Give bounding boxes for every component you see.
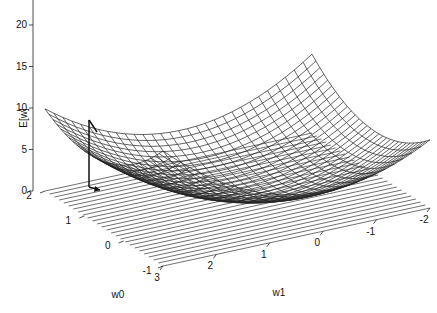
- w1-tick-label: 1: [261, 249, 267, 260]
- surface-mesh: [45, 54, 430, 203]
- w1-axis-label: w1: [272, 287, 286, 298]
- w1-tick-label: 2: [208, 260, 214, 271]
- w0-tick-label: -1: [143, 265, 152, 276]
- w0-tick-label: 0: [105, 240, 111, 251]
- w0-tick-label: 1: [66, 215, 72, 226]
- w0-axis: 210-1: [26, 190, 163, 276]
- z-tick-label: 5: [21, 144, 27, 155]
- w1-axis: -2-10123: [154, 208, 430, 283]
- w0-axis-label: w0: [111, 289, 125, 300]
- w1-tick-label: 0: [314, 237, 320, 248]
- w1-tick-label: 3: [154, 272, 160, 283]
- z-tick-label: 20: [16, 19, 28, 30]
- z-axis: 0510152025: [16, 0, 33, 196]
- w1-tick-label: -1: [366, 226, 375, 237]
- error-surface-plot: 0510152025 210-1 -2-10123 E[w] w0 w1: [0, 0, 437, 313]
- w0-tick-label: 2: [26, 190, 32, 201]
- z-tick-label: 15: [16, 61, 28, 72]
- z-axis-label: E[w]: [18, 108, 29, 128]
- w1-tick-label: -2: [420, 214, 429, 225]
